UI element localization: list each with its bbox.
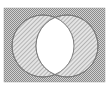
venn-diagram [0,0,110,86]
